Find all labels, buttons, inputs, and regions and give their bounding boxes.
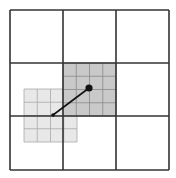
small-dot: [51, 113, 55, 117]
grid-diagram: [0, 0, 176, 178]
large-dot: [85, 84, 92, 91]
